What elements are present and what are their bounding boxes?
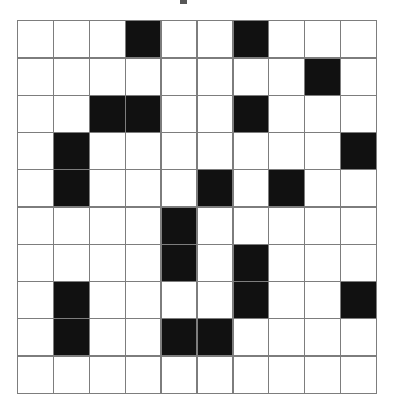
grid-cell-r7-c2 xyxy=(54,245,88,281)
grid-cell-r5-c3 xyxy=(90,170,124,206)
grid-cell-r3-c3 xyxy=(90,96,124,132)
grid-cell-r5-c5 xyxy=(162,170,196,206)
grid-cell-r1-c2 xyxy=(54,21,88,57)
grid-cell-r3-c4 xyxy=(126,96,160,132)
grid-cell-r8-c6 xyxy=(198,282,232,318)
grid-cell-r1-c5 xyxy=(162,21,196,57)
grid-cell-r7-c5 xyxy=(162,245,196,281)
grid-cell-r10-c8 xyxy=(269,357,303,393)
grid-cell-r2-c6 xyxy=(198,59,232,95)
grid-cell-r4-c3 xyxy=(90,133,124,169)
grid-cell-r1-c7 xyxy=(234,21,268,57)
grid-cell-r4-c2 xyxy=(54,133,88,169)
grid-cell-r8-c9 xyxy=(305,282,339,318)
grid-cell-r5-c9 xyxy=(305,170,339,206)
grid-cell-r5-c2 xyxy=(54,170,88,206)
grid-cell-r1-c1 xyxy=(18,21,52,57)
grid-cell-r9-c8 xyxy=(269,319,303,355)
grid-cell-r5-c10 xyxy=(341,170,375,206)
grid-cell-r3-c8 xyxy=(269,96,303,132)
grid-cell-r2-c1 xyxy=(18,59,52,95)
grid-cell-r4-c4 xyxy=(126,133,160,169)
grid-cell-r8-c8 xyxy=(269,282,303,318)
grid-cell-r10-c7 xyxy=(234,357,268,393)
grid-cell-r7-c8 xyxy=(269,245,303,281)
grid-cell-r4-c7 xyxy=(234,133,268,169)
grid-cell-r10-c9 xyxy=(305,357,339,393)
grid-cell-r7-c7 xyxy=(234,245,268,281)
grid-cell-r8-c2 xyxy=(54,282,88,318)
grid-cell-r5-c6 xyxy=(198,170,232,206)
grid-cell-r10-c1 xyxy=(18,357,52,393)
grid-cell-r10-c6 xyxy=(198,357,232,393)
grid-cell-r7-c9 xyxy=(305,245,339,281)
grid-cell-r6-c3 xyxy=(90,208,124,244)
grid-container xyxy=(17,20,377,394)
grid-cell-r4-c8 xyxy=(269,133,303,169)
grid-cell-r10-c3 xyxy=(90,357,124,393)
grid-cell-r4-c9 xyxy=(305,133,339,169)
grid-cell-r1-c6 xyxy=(198,21,232,57)
grid-cell-r9-c2 xyxy=(54,319,88,355)
grid-cell-r7-c10 xyxy=(341,245,375,281)
grid-cell-r9-c7 xyxy=(234,319,268,355)
grid-cell-r7-c4 xyxy=(126,245,160,281)
grid-cell-r6-c7 xyxy=(234,208,268,244)
grid-cell-r7-c3 xyxy=(90,245,124,281)
scan-artifact-mark xyxy=(180,0,187,4)
grid-cell-r2-c7 xyxy=(234,59,268,95)
grid-cell-r10-c10 xyxy=(341,357,375,393)
grid-cell-r1-c4 xyxy=(126,21,160,57)
figure-canvas xyxy=(0,0,394,412)
grid-cell-r6-c2 xyxy=(54,208,88,244)
grid-cell-r8-c1 xyxy=(18,282,52,318)
grid-cell-r10-c5 xyxy=(162,357,196,393)
grid-cell-r2-c10 xyxy=(341,59,375,95)
grid-cell-r3-c2 xyxy=(54,96,88,132)
grid-cell-r1-c10 xyxy=(341,21,375,57)
grid-cell-r3-c1 xyxy=(18,96,52,132)
grid-cell-r2-c9 xyxy=(305,59,339,95)
grid-cell-r2-c8 xyxy=(269,59,303,95)
grid-cell-r5-c7 xyxy=(234,170,268,206)
grid-cell-r6-c4 xyxy=(126,208,160,244)
binary-grid xyxy=(17,20,377,394)
grid-cell-r3-c6 xyxy=(198,96,232,132)
grid-cell-r3-c9 xyxy=(305,96,339,132)
grid-cell-r6-c8 xyxy=(269,208,303,244)
grid-cell-r1-c9 xyxy=(305,21,339,57)
grid-cell-r2-c3 xyxy=(90,59,124,95)
grid-cell-r5-c1 xyxy=(18,170,52,206)
grid-cell-r5-c8 xyxy=(269,170,303,206)
grid-cell-r3-c10 xyxy=(341,96,375,132)
grid-cell-r6-c1 xyxy=(18,208,52,244)
grid-cell-r8-c3 xyxy=(90,282,124,318)
grid-cell-r8-c4 xyxy=(126,282,160,318)
grid-cell-r9-c1 xyxy=(18,319,52,355)
grid-cell-r9-c4 xyxy=(126,319,160,355)
grid-cell-r8-c10 xyxy=(341,282,375,318)
grid-cell-r2-c5 xyxy=(162,59,196,95)
grid-cell-r7-c6 xyxy=(198,245,232,281)
grid-cell-r1-c3 xyxy=(90,21,124,57)
grid-cell-r8-c7 xyxy=(234,282,268,318)
grid-cell-r4-c6 xyxy=(198,133,232,169)
grid-cell-r1-c8 xyxy=(269,21,303,57)
grid-cell-r5-c4 xyxy=(126,170,160,206)
grid-cell-r9-c6 xyxy=(198,319,232,355)
grid-cell-r4-c10 xyxy=(341,133,375,169)
grid-cell-r9-c5 xyxy=(162,319,196,355)
grid-cell-r2-c2 xyxy=(54,59,88,95)
grid-cell-r2-c4 xyxy=(126,59,160,95)
grid-cell-r6-c10 xyxy=(341,208,375,244)
grid-cell-r3-c7 xyxy=(234,96,268,132)
grid-cell-r8-c5 xyxy=(162,282,196,318)
grid-cell-r9-c9 xyxy=(305,319,339,355)
grid-cell-r3-c5 xyxy=(162,96,196,132)
grid-cell-r9-c3 xyxy=(90,319,124,355)
grid-cell-r6-c5 xyxy=(162,208,196,244)
grid-cell-r4-c1 xyxy=(18,133,52,169)
grid-cell-r6-c9 xyxy=(305,208,339,244)
grid-cell-r10-c4 xyxy=(126,357,160,393)
grid-cell-r7-c1 xyxy=(18,245,52,281)
